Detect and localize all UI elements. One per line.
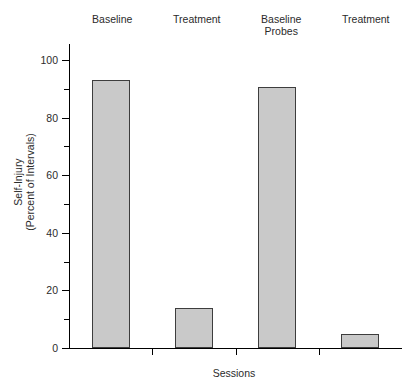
y-tick-minor-50 xyxy=(64,204,70,205)
y-tick-minor-90 xyxy=(64,89,70,90)
y-tick-major-40 xyxy=(62,233,70,234)
phase-header-treatment-1: Treatment xyxy=(155,13,240,45)
y-tick-major-0 xyxy=(62,348,70,349)
bar-0 xyxy=(92,80,130,348)
y-tick-minor-70 xyxy=(64,146,70,147)
cropped-header-text xyxy=(0,0,408,7)
x-tick-divider-2 xyxy=(236,349,237,355)
phase-header-row: Baseline Treatment Baseline Probes Treat… xyxy=(70,13,408,45)
x-tick-divider-1 xyxy=(152,349,153,355)
y-tick-major-80 xyxy=(62,118,70,119)
y-axis-title: Self-Injury (Percent of Intervals) xyxy=(12,122,36,242)
y-tick-label-60: 60 xyxy=(24,170,58,180)
y-tick-label-100: 100 xyxy=(24,55,58,65)
phase-header-baseline-1: Baseline xyxy=(70,13,155,45)
y-tick-minor-30 xyxy=(64,262,70,263)
x-tick-divider-3 xyxy=(319,349,320,355)
y-tick-label-0: 0 xyxy=(24,343,58,353)
bar-chart-figure: Baseline Treatment Baseline Probes Treat… xyxy=(0,0,408,390)
phase-header-baseline-probes: Baseline Probes xyxy=(239,13,324,45)
y-tick-major-60 xyxy=(62,175,70,176)
bar-2 xyxy=(258,87,296,348)
bar-3 xyxy=(341,334,379,348)
y-tick-major-100 xyxy=(62,60,70,61)
phase-header-treatment-2: Treatment xyxy=(324,13,408,45)
y-tick-minor-10 xyxy=(64,319,70,320)
y-tick-label-80: 80 xyxy=(24,113,58,123)
y-tick-label-40: 40 xyxy=(24,228,58,238)
x-axis-title: Sessions xyxy=(0,367,408,379)
y-tick-label-20: 20 xyxy=(24,285,58,295)
y-tick-major-20 xyxy=(62,290,70,291)
bar-1 xyxy=(175,308,213,348)
